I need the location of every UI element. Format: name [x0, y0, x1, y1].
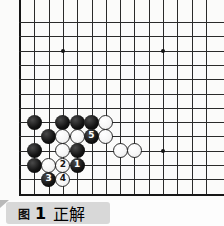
stone-white — [70, 129, 85, 144]
stone-white — [41, 158, 56, 173]
stone-black-move-5: 5 — [84, 129, 99, 144]
stone-move-number: 2 — [60, 160, 66, 169]
stone-white — [113, 143, 128, 158]
grid-line-horizontal — [19, 22, 224, 23]
star-point — [61, 49, 65, 53]
stone-black — [27, 158, 42, 173]
stone-black — [27, 115, 42, 130]
grid-line-horizontal — [19, 79, 224, 80]
stone-black — [55, 115, 70, 130]
grid-line-horizontal — [19, 36, 224, 37]
figure-container: 52134 图 1 正解 — [0, 0, 224, 226]
caption-label: 图 — [6, 205, 31, 222]
star-point — [161, 149, 165, 153]
stone-white — [55, 129, 70, 144]
stone-move-number: 5 — [88, 131, 94, 140]
stone-move-number: 1 — [74, 160, 80, 169]
stone-white-move-2: 2 — [55, 158, 70, 173]
grid-line-horizontal — [19, 194, 224, 196]
stone-black — [70, 143, 85, 158]
stone-black — [41, 129, 56, 144]
stone-black-move-1: 1 — [70, 158, 85, 173]
stone-white — [98, 129, 113, 144]
stone-move-number: 3 — [45, 174, 51, 183]
grid-line-horizontal — [19, 122, 224, 123]
grid-line-horizontal — [19, 65, 224, 66]
stone-move-number: 4 — [60, 174, 66, 183]
grid-line-horizontal — [19, 51, 224, 52]
grid-line-horizontal — [19, 94, 224, 95]
stone-black — [27, 143, 42, 158]
figure-caption: 图 1 正解 — [6, 202, 110, 224]
go-board[interactable]: 52134 — [0, 0, 224, 200]
stone-black — [84, 115, 99, 130]
grid-line-horizontal — [19, 108, 224, 109]
star-point — [161, 49, 165, 53]
stone-black — [70, 115, 85, 130]
caption-number: 1 — [31, 204, 53, 223]
stone-white — [127, 143, 142, 158]
caption-title: 正解 — [53, 201, 85, 225]
stone-black-move-3: 3 — [41, 172, 56, 187]
stone-white — [98, 115, 113, 130]
stone-white-move-4: 4 — [55, 172, 70, 187]
stone-white — [55, 143, 70, 158]
